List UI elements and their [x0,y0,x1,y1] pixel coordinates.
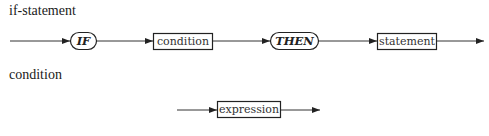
nonterminal-expression: expression [218,102,281,118]
if-statement-diagram: IF condition THEN statement [10,33,484,50]
condition-diagram: expression [177,102,320,118]
nonterminal-label: expression [219,103,279,116]
terminal-label: THEN [275,34,314,48]
nonterminal-statement: statement [378,34,437,50]
nonterminal-condition: condition [154,34,213,50]
nonterminal-label: statement [379,35,436,48]
terminal-if: IF [71,33,97,50]
nonterminal-label: condition [157,35,209,48]
terminal-label: IF [76,34,91,48]
terminal-then: THEN [271,33,319,50]
syntax-diagrams: IF condition THEN statement expression [0,0,489,136]
